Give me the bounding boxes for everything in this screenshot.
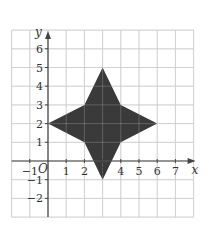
y-tick-label: 2: [36, 118, 43, 131]
x-tick-label: 3: [99, 165, 106, 178]
y-tick-label: −2: [27, 192, 43, 205]
x-tick-label: 6: [154, 165, 161, 178]
coordinate-plot: −11234567654321−1−2 x y O: [0, 0, 209, 228]
y-tick-label: 1: [36, 136, 43, 149]
x-tick-label: 1: [63, 165, 70, 178]
y-tick-label: 6: [36, 43, 43, 56]
x-tick-label: 2: [81, 165, 88, 178]
y-axis-label: y: [34, 25, 42, 39]
y-tick-label: 3: [36, 99, 43, 112]
y-tick-label: 4: [36, 80, 43, 93]
x-axis-label: x: [192, 163, 199, 177]
y-tick-label: 5: [36, 62, 43, 75]
y-axis-arrow-icon: [45, 31, 51, 39]
x-tick-label: 4: [117, 165, 124, 178]
x-tick-label: 5: [136, 165, 143, 178]
origin-label: O: [38, 162, 48, 176]
x-tick-label: 7: [172, 165, 179, 178]
